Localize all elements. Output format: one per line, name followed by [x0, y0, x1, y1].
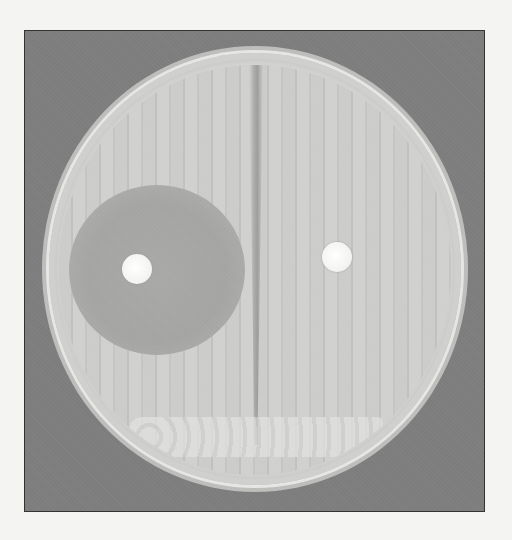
inhibition-zone: [69, 185, 245, 355]
photo-frame: [24, 30, 485, 512]
colony-growth: [129, 417, 389, 457]
right-antibiotic-disk: [322, 242, 352, 272]
left-antibiotic-disk: [122, 254, 152, 284]
agar-plate: [59, 65, 451, 475]
petri-dish: [49, 53, 461, 485]
